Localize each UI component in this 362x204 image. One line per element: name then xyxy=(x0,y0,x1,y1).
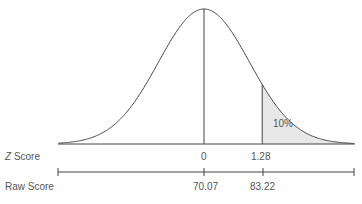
raw-tick-1-label: 83.22 xyxy=(250,181,275,192)
shaded-tail-area xyxy=(262,84,354,144)
normal-curve-chart xyxy=(0,0,362,204)
raw-tick-0-label: 70.07 xyxy=(193,181,218,192)
z-tick-1-label: 1.28 xyxy=(251,151,270,162)
raw-score-axis-label: Raw Score xyxy=(5,181,54,192)
z-tick-0-label: 0 xyxy=(201,151,207,162)
shaded-percent-label: 10% xyxy=(273,118,293,129)
z-score-axis-label: Z Score xyxy=(5,151,40,162)
z-score-word: Score xyxy=(11,151,40,162)
normal-curve xyxy=(58,9,354,143)
